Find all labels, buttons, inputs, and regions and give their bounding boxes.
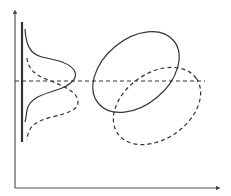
solid-ellipse <box>77 15 194 129</box>
diagram-svg <box>0 0 231 196</box>
solid-density-curve <box>25 29 76 122</box>
diagram-canvas <box>0 0 231 196</box>
dashed-ellipse <box>99 51 215 160</box>
